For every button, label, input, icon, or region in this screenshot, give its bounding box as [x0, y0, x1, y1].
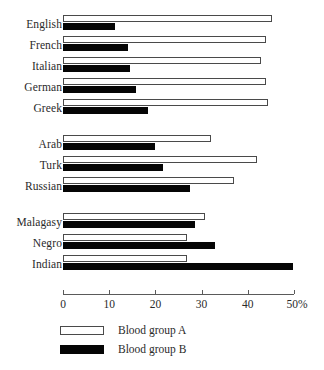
x-axis-line	[63, 294, 294, 295]
category-row: Turk	[0, 155, 324, 176]
bar-pair	[63, 36, 313, 55]
bar-blood-group-b	[63, 86, 136, 93]
x-axis-tick-label: 20	[150, 297, 162, 311]
category-row: Negro	[0, 233, 324, 254]
x-axis-tick	[248, 290, 249, 294]
x-axis-tick	[202, 290, 203, 294]
bar-blood-group-a	[63, 36, 266, 43]
category-row: Greek	[0, 98, 324, 119]
bar-blood-group-a	[63, 57, 261, 64]
category-label: German	[0, 79, 62, 96]
category-label: Malagasy	[0, 214, 62, 231]
chart-legend: Blood group A Blood group B	[60, 322, 300, 360]
bar-blood-group-b	[63, 164, 163, 171]
bar-pair	[63, 213, 313, 232]
x-axis-tick	[155, 290, 156, 294]
bar-blood-group-a	[63, 15, 272, 22]
category-label: French	[0, 37, 62, 54]
x-axis-tick	[109, 290, 110, 294]
bar-blood-group-b	[63, 263, 293, 270]
x-axis-tick-label: 10	[103, 297, 115, 311]
category-label: Italian	[0, 58, 62, 75]
bar-blood-group-a	[63, 135, 211, 142]
legend-label-blood-group-a: Blood group A	[118, 322, 186, 339]
category-label: English	[0, 16, 62, 33]
bar-blood-group-b	[63, 23, 115, 30]
bar-blood-group-b	[63, 107, 148, 114]
category-row: Indian	[0, 254, 324, 275]
bar-blood-group-b	[63, 221, 195, 228]
legend-label-blood-group-b: Blood group B	[118, 341, 186, 358]
category-row: German	[0, 77, 324, 98]
x-axis-tick	[294, 290, 295, 294]
x-axis-tick-label: 0	[60, 297, 66, 311]
category-row: French	[0, 35, 324, 56]
category-label: Arab	[0, 136, 62, 153]
bar-pair	[63, 255, 313, 274]
bar-pair	[63, 15, 313, 34]
category-label: Negro	[0, 235, 62, 252]
bar-blood-group-a	[63, 213, 205, 220]
bar-pair	[63, 135, 313, 154]
category-row: Russian	[0, 176, 324, 197]
bar-blood-group-a	[63, 234, 187, 241]
category-label: Indian	[0, 256, 62, 273]
bar-blood-group-a	[63, 177, 234, 184]
blood-group-bar-chart: EnglishFrenchItalianGermanGreekArabTurkR…	[0, 0, 324, 370]
category-row: Malagasy	[0, 212, 324, 233]
bar-blood-group-a	[63, 78, 266, 85]
bar-blood-group-b	[63, 65, 130, 72]
legend-swatch-b-icon	[60, 345, 104, 354]
bar-blood-group-b	[63, 242, 215, 249]
legend-swatch-a-icon	[60, 326, 104, 335]
legend-item-blood-group-a: Blood group A	[60, 322, 300, 341]
bar-blood-group-a	[63, 156, 257, 163]
x-axis-tick-label: 50%	[286, 297, 307, 311]
x-axis-tick-label: 40	[242, 297, 254, 311]
legend-item-blood-group-b: Blood group B	[60, 341, 300, 360]
bar-pair	[63, 156, 313, 175]
x-axis-tick	[63, 290, 64, 294]
category-row: English	[0, 14, 324, 35]
x-axis-tick-label: 30	[196, 297, 208, 311]
bar-pair	[63, 234, 313, 253]
bar-pair	[63, 57, 313, 76]
category-label: Greek	[0, 100, 62, 117]
bar-blood-group-b	[63, 44, 128, 51]
plot-area: EnglishFrenchItalianGermanGreekArabTurkR…	[0, 0, 324, 288]
bar-pair	[63, 99, 313, 118]
bar-blood-group-a	[63, 255, 187, 262]
bar-pair	[63, 78, 313, 97]
category-label: Russian	[0, 178, 62, 195]
bar-blood-group-b	[63, 185, 190, 192]
category-label: Turk	[0, 157, 62, 174]
category-row: Arab	[0, 134, 324, 155]
category-row: Italian	[0, 56, 324, 77]
bar-blood-group-a	[63, 99, 268, 106]
bar-pair	[63, 177, 313, 196]
bar-blood-group-b	[63, 143, 155, 150]
